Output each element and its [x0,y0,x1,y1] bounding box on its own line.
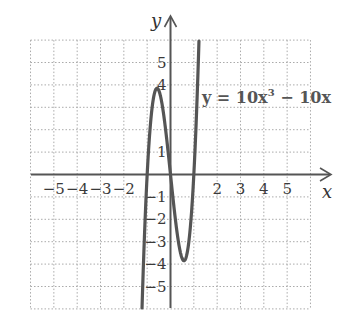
x-tick-label: 3 [236,180,246,198]
y-tick-label: −3 [144,233,166,251]
cubic-function-graph: −5−4−3−22345541−1−2−3−4−5 x y y = 10x3 −… [0,0,351,327]
y-tick-label: −2 [144,210,166,228]
y-tick-label: −5 [144,278,166,296]
x-tick-label: 2 [212,180,222,198]
y-axis-label: y [150,10,162,31]
y-tick-label: −4 [144,255,166,273]
x-tick-label: −3 [89,180,111,198]
axes [31,16,331,308]
x-tick-label: −4 [66,180,88,198]
y-tick-label: 1 [157,143,167,161]
equation-label: y = 10x3 − 10x [201,87,331,107]
x-tick-label: 4 [259,180,269,198]
x-tick-label: 5 [282,180,292,198]
x-tick-label: −2 [113,180,135,198]
x-axis-label: x [322,181,332,202]
y-tick-label: 5 [157,54,167,72]
x-tick-label: −5 [43,180,65,198]
